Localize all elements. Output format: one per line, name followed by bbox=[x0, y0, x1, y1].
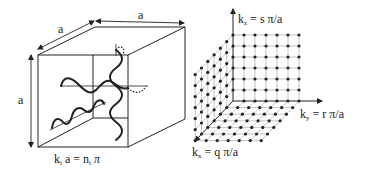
lattice-point bbox=[268, 119, 271, 122]
diagram-canvas: a a a ki a = ni π kz = s π/a ky = r π/a … bbox=[0, 0, 368, 174]
wave-diagonal bbox=[52, 100, 104, 128]
lattice-point bbox=[274, 113, 277, 116]
lattice-point bbox=[242, 55, 245, 58]
lattice-point bbox=[264, 44, 267, 47]
lattice-point bbox=[200, 121, 203, 124]
lattice-point bbox=[205, 139, 208, 142]
lattice-point bbox=[275, 77, 278, 80]
lattice-point bbox=[206, 93, 209, 96]
lattice-point bbox=[225, 95, 228, 98]
lattice-point bbox=[213, 97, 216, 100]
lattice-point bbox=[194, 106, 197, 109]
wave-horizontal bbox=[61, 78, 128, 92]
lattice-point bbox=[213, 108, 216, 111]
lattice-point bbox=[258, 106, 261, 109]
lattice-point bbox=[260, 139, 263, 142]
lattice-point bbox=[200, 99, 203, 102]
lattice-point bbox=[272, 126, 275, 129]
lattice-point bbox=[247, 106, 250, 109]
lattice-point bbox=[246, 119, 249, 122]
lattice-point bbox=[250, 126, 253, 129]
lattice-point bbox=[249, 139, 252, 142]
lattice-point bbox=[217, 126, 220, 129]
lattice-point bbox=[219, 80, 222, 83]
lattice-point bbox=[253, 44, 256, 47]
lattice-point bbox=[213, 53, 216, 56]
lattice-point bbox=[222, 132, 225, 135]
lattice-point bbox=[206, 115, 209, 118]
lattice-point bbox=[242, 88, 245, 91]
lattice-point bbox=[297, 77, 300, 80]
lattice-point bbox=[230, 113, 233, 116]
lattice-point bbox=[252, 113, 255, 116]
lattice-point bbox=[297, 88, 300, 91]
lattice-point bbox=[286, 33, 289, 36]
lattice-point bbox=[253, 88, 256, 91]
lattice-point bbox=[225, 73, 228, 76]
lattice-point bbox=[286, 55, 289, 58]
lattice-point bbox=[266, 132, 269, 135]
lattice-point bbox=[225, 84, 228, 87]
lattice-point bbox=[297, 66, 300, 69]
lattice-point bbox=[242, 33, 245, 36]
lattice-point bbox=[224, 119, 227, 122]
lattice-point bbox=[206, 71, 209, 74]
kz-axis-label: kz = s π/a bbox=[238, 12, 283, 27]
lattice-point bbox=[219, 47, 222, 50]
lattice-point bbox=[194, 117, 197, 120]
lattice-point bbox=[216, 139, 219, 142]
lattice-point bbox=[264, 88, 267, 91]
cube-right-edges bbox=[128, 27, 185, 147]
kx-axis-label: kx = q π/a bbox=[192, 145, 239, 160]
cube-equation: ki a = ni π bbox=[54, 152, 101, 167]
lattice-point bbox=[206, 60, 209, 63]
lattice-point bbox=[200, 88, 203, 91]
lattice-point bbox=[225, 51, 228, 54]
lattice-point bbox=[275, 44, 278, 47]
wave-vertical bbox=[110, 50, 122, 140]
label-height-a: a bbox=[18, 93, 24, 107]
lattice-point bbox=[211, 132, 214, 135]
lattice-point bbox=[200, 66, 203, 69]
cube-box bbox=[38, 27, 185, 147]
lattice-point bbox=[285, 113, 288, 116]
lattice-point bbox=[225, 40, 228, 43]
lattice-point bbox=[242, 77, 245, 80]
lattice-point bbox=[238, 139, 241, 142]
lattice-point bbox=[235, 119, 238, 122]
standing-waves bbox=[52, 50, 128, 140]
lattice-point bbox=[236, 106, 239, 109]
lattice-point bbox=[264, 66, 267, 69]
lattice-point bbox=[253, 66, 256, 69]
lattice-point bbox=[286, 66, 289, 69]
lattice-point bbox=[213, 86, 216, 89]
lattice-point bbox=[227, 139, 230, 142]
lattice-point bbox=[261, 126, 264, 129]
lattice-point bbox=[206, 104, 209, 107]
lattice-point bbox=[275, 55, 278, 58]
lattice-point bbox=[194, 73, 197, 76]
lattice-point bbox=[194, 95, 197, 98]
lattice-point bbox=[228, 126, 231, 129]
lattice-point bbox=[257, 119, 260, 122]
lattice-point bbox=[206, 82, 209, 85]
lattice-point bbox=[280, 106, 283, 109]
lattice-point bbox=[200, 110, 203, 113]
lattice-point bbox=[253, 77, 256, 80]
lattice-point bbox=[239, 126, 242, 129]
lattice-point bbox=[286, 44, 289, 47]
lattice-point bbox=[219, 69, 222, 72]
lattice-point bbox=[241, 113, 244, 116]
label-width-a: a bbox=[138, 8, 144, 22]
lattice-point bbox=[275, 33, 278, 36]
lattice-point bbox=[213, 64, 216, 67]
lattice-point bbox=[286, 88, 289, 91]
lattice-point bbox=[194, 84, 197, 87]
lattice-point bbox=[242, 66, 245, 69]
lattice-point bbox=[275, 88, 278, 91]
wave-horizontal-dotted-end bbox=[128, 86, 146, 92]
lattice-point bbox=[219, 102, 222, 105]
wave-continuations bbox=[116, 44, 146, 92]
lattice-point bbox=[279, 119, 282, 122]
lattice-point bbox=[255, 132, 258, 135]
